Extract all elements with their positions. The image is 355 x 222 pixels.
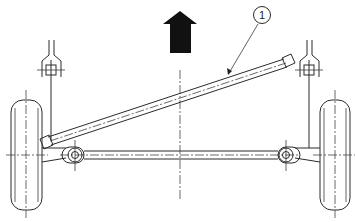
left-pivot (62, 140, 84, 171)
right-wheel (313, 90, 355, 218)
callout-1: 1 (227, 7, 271, 76)
suspension-diagram: 1 (0, 0, 355, 222)
leader-line (229, 24, 258, 73)
forward-arrow-icon (163, 11, 197, 53)
left-wheel (6, 90, 48, 218)
right-strut-mount (295, 40, 323, 148)
right-pivot (278, 140, 300, 171)
diagram-canvas: 1 (0, 0, 355, 222)
lateral-rod (40, 54, 295, 149)
callout-label: 1 (259, 9, 265, 21)
left-strut-mount (37, 40, 65, 140)
